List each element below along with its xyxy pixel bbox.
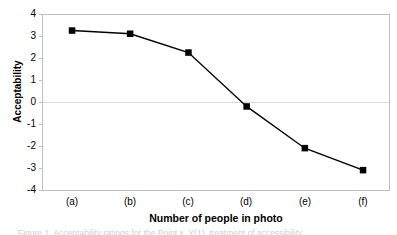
chart-figure: Acceptability 4 3 2 1 0 -1 -2 -3 -4 (a) … [0, 0, 397, 235]
x-tick-label-e: (e) [285, 197, 325, 207]
data-point-c [185, 49, 192, 56]
x-tick-label-b: (b) [110, 197, 150, 207]
x-tick-label-d: (d) [226, 197, 266, 207]
x-axis-title: Number of people in photo [42, 212, 390, 224]
y-tick-label-neg2: -2 [14, 141, 36, 151]
y-tick-label-1: 1 [14, 75, 36, 85]
y-tick-label-2: 2 [14, 53, 36, 63]
data-point-f [360, 167, 367, 174]
y-tick-label-4: 4 [14, 9, 36, 19]
data-point-b [127, 31, 133, 38]
y-axis-title: Acceptability [12, 32, 23, 152]
figure-caption: Figure 1. Acceptability ratings for the … [18, 228, 390, 235]
data-point-d [243, 103, 250, 110]
plot-area [39, 15, 390, 191]
data-point-e [302, 145, 309, 152]
x-tick-label-c: (c) [168, 197, 208, 207]
data-point-a [69, 27, 76, 34]
y-tick-label-0: 0 [14, 97, 36, 107]
y-tick-label-neg1: -1 [14, 119, 36, 129]
y-tick-label-neg3: -3 [14, 163, 36, 173]
x-tick-label-f: (f) [343, 197, 383, 207]
y-tick-label-3: 3 [14, 31, 36, 41]
y-tick-label-neg4: -4 [14, 185, 36, 195]
x-tick-label-a: (a) [52, 197, 92, 207]
